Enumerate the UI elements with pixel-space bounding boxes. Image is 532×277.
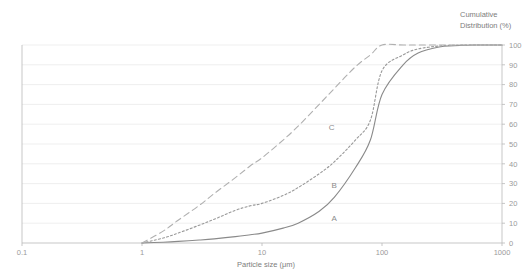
cumulative-distribution-chart: 0.11101001000 0102030405060708090100 ABC…	[0, 0, 532, 277]
y-tick-label-20: 20	[509, 199, 517, 208]
series-label-A: A	[332, 214, 338, 223]
y-tick-label-100: 100	[509, 41, 522, 50]
x-tick-label-1: 1	[140, 248, 144, 257]
x-axis-tick-labels: 0.11101001000	[17, 248, 511, 257]
y-tick-label-40: 40	[509, 160, 517, 169]
y-tick-label-70: 70	[509, 100, 517, 109]
series-curves-group	[142, 44, 502, 243]
y-axis-tick-labels: 0102030405060708090100	[509, 41, 522, 248]
gridlines-group	[22, 45, 502, 223]
y-tick-label-30: 30	[509, 179, 517, 188]
x-tick-label-1000: 1000	[494, 248, 511, 257]
series-label-B: B	[332, 181, 337, 190]
y-tick-label-50: 50	[509, 140, 517, 149]
y-tick-label-60: 60	[509, 120, 517, 129]
x-axis-title: Particle size (μm)	[237, 260, 296, 269]
series-label-C: C	[329, 123, 335, 132]
y-tick-label-0: 0	[509, 239, 513, 248]
axes-group	[22, 45, 505, 246]
y-axis-title-line2: Distribution (%)	[460, 21, 512, 30]
y-tick-label-80: 80	[509, 80, 517, 89]
y-tick-label-10: 10	[509, 219, 517, 228]
y-axis-title-line1: Cumulative	[460, 10, 498, 19]
x-tick-label-100: 100	[376, 248, 389, 257]
series-inline-labels: ABC	[329, 123, 338, 223]
x-tick-label-0.1: 0.1	[17, 248, 27, 257]
chart-container: 0.11101001000 0102030405060708090100 ABC…	[0, 0, 532, 277]
x-tick-label-10: 10	[258, 248, 266, 257]
curve-series-C	[142, 44, 502, 243]
y-tick-label-90: 90	[509, 61, 517, 70]
